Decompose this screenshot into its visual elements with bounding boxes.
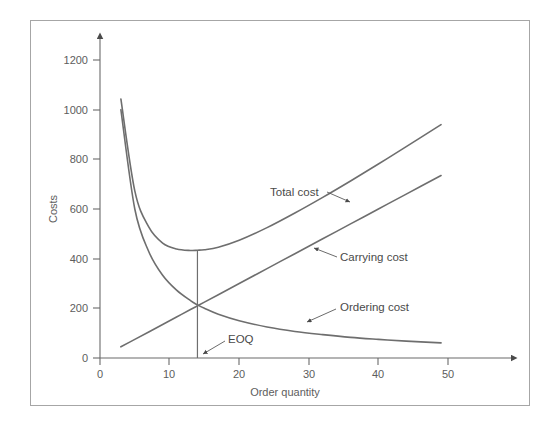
y-axis-title: Costs bbox=[47, 194, 59, 223]
x-tick-label-40: 40 bbox=[372, 368, 384, 380]
x-tick-label-0: 0 bbox=[97, 368, 103, 380]
y-tick-label-800: 800 bbox=[70, 153, 88, 165]
y-axis: 0 200 400 600 800 1000 1200 Costs bbox=[47, 38, 100, 364]
carrying-cost-label: Carrying cost bbox=[340, 251, 409, 263]
eoq-leader-line bbox=[203, 341, 225, 354]
y-tick-label-400: 400 bbox=[70, 253, 88, 265]
y-tick-label-1200: 1200 bbox=[64, 54, 88, 66]
total-cost-label: Total cost bbox=[270, 186, 319, 198]
total-cost-curve bbox=[121, 99, 441, 251]
figure-container: 0 200 400 600 800 1000 1200 Costs 0 10 2… bbox=[0, 0, 554, 429]
x-axis-title: Order quantity bbox=[250, 386, 320, 398]
x-tick-label-30: 30 bbox=[303, 368, 315, 380]
annotation-ordering-cost: Ordering cost bbox=[307, 301, 410, 322]
y-tick-label-600: 600 bbox=[70, 203, 88, 215]
total-cost-leader-line bbox=[327, 192, 350, 202]
annotation-carrying-cost: Carrying cost bbox=[314, 248, 409, 263]
x-tick-label-20: 20 bbox=[233, 368, 245, 380]
x-axis: 0 10 20 30 40 50 Order quantity bbox=[97, 358, 512, 398]
carrying-cost-leader-line bbox=[314, 248, 337, 257]
eoq-cost-chart: 0 200 400 600 800 1000 1200 Costs 0 10 2… bbox=[0, 0, 554, 429]
eoq-label: EOQ bbox=[228, 333, 254, 345]
ordering-cost-leader-line bbox=[307, 309, 336, 322]
ordering-cost-label: Ordering cost bbox=[340, 301, 410, 313]
x-tick-label-10: 10 bbox=[163, 368, 175, 380]
annotation-eoq: EOQ bbox=[203, 333, 254, 354]
y-tick-label-0: 0 bbox=[82, 352, 88, 364]
y-tick-label-200: 200 bbox=[70, 302, 88, 314]
y-tick-label-1000: 1000 bbox=[64, 104, 88, 116]
x-tick-label-50: 50 bbox=[442, 368, 454, 380]
